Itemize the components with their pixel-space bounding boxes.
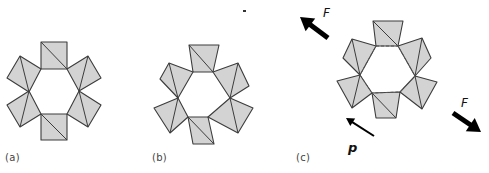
force-arrow-icon	[300, 17, 328, 38]
tile-c-1	[343, 39, 376, 75]
panel-b-rotated-ring	[154, 45, 253, 144]
figure-canvas: (a) (b) (c) F F p	[0, 0, 489, 173]
stray-mark	[243, 10, 246, 12]
panel-a-hexagonal-ring	[7, 42, 101, 140]
force-label-top-left: F	[323, 6, 330, 20]
polarization-label: p	[348, 140, 357, 155]
force-label-bottom-right: F	[461, 96, 468, 110]
tile-b-0	[189, 45, 219, 72]
tile-c-3	[372, 92, 400, 118]
polarization-arrow-icon	[346, 118, 374, 136]
panel-c-stressed-ring	[300, 17, 481, 136]
tile-c-0	[373, 21, 403, 46]
tile-b-5	[208, 98, 253, 133]
force-arrow-icon	[453, 113, 481, 132]
panel-label-b: (b)	[152, 152, 167, 163]
tile-c-4	[398, 38, 431, 76]
panel-label-a: (a)	[5, 152, 20, 163]
tile-c-2	[337, 75, 372, 108]
panel-label-c: (c)	[296, 152, 310, 163]
diagram-svg	[0, 0, 489, 173]
